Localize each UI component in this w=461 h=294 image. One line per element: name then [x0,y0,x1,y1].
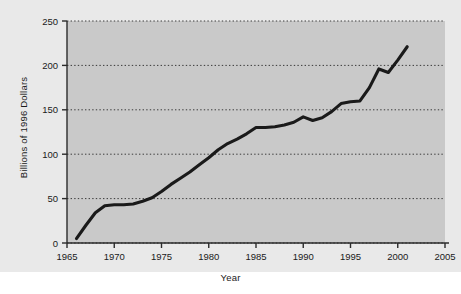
x-tick-label: 2005 [434,251,455,262]
plot-area-background [67,21,445,243]
y-tick-label: 100 [42,149,58,160]
x-axis-ticks: 196519701975198019851990199520002005 [56,243,455,262]
x-tick-label: 1975 [151,251,172,262]
x-tick-label: 1985 [245,251,266,262]
y-axis-ticks: 050100150200250 [42,16,67,249]
x-tick-label: 2000 [387,251,408,262]
x-tick-label: 1965 [56,251,77,262]
y-tick-label: 250 [42,16,58,27]
x-axis-title: Year [0,272,461,283]
y-tick-label: 200 [42,60,58,71]
x-tick-label: 1980 [198,251,219,262]
y-tick-label: 0 [53,238,58,249]
chart-figure: 050100150200250 196519701975198019851990… [0,0,461,294]
x-tick-label: 1990 [293,251,314,262]
line-chart: 050100150200250 196519701975198019851990… [0,0,461,294]
y-tick-label: 50 [47,193,58,204]
x-tick-label: 1970 [104,251,125,262]
y-axis-title: Billions of 1996 Dollars [18,48,29,208]
x-tick-label: 1995 [340,251,361,262]
y-tick-label: 150 [42,104,58,115]
